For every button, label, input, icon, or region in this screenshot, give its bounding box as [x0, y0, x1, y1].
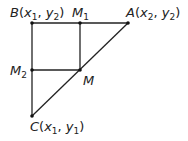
point-A [126, 21, 130, 25]
point-M [78, 68, 82, 72]
point-M1 [78, 21, 82, 25]
label-M: M [83, 73, 94, 88]
point-C [30, 114, 34, 118]
label-A: A(x2, y2) [125, 5, 180, 22]
label-B: B(x1, y2) [10, 5, 64, 22]
midpoint-triangle-diagram: B(x1, y2) M1 A(x2, y2) M2 M C(x1, y1) [0, 0, 188, 141]
label-C: C(x1, y1) [30, 119, 84, 136]
point-M2 [30, 68, 34, 72]
label-M1: M1 [72, 5, 89, 22]
label-M2: M2 [10, 63, 27, 80]
